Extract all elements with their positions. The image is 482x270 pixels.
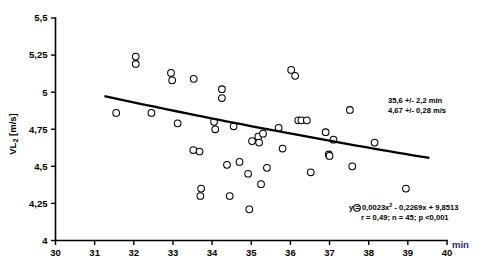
- data-point-circle: [258, 181, 265, 188]
- data-point-circle: [148, 110, 155, 117]
- data-point-circle: [219, 86, 226, 93]
- data-point-circle: [246, 206, 253, 213]
- x-axis-title: min: [452, 239, 469, 250]
- stats-annotation: 35,6 +/- 2,2 min 4,67 +/- 0,28 m/s: [388, 96, 446, 115]
- x-tick-label: 31: [89, 247, 100, 258]
- data-point-circle: [249, 138, 256, 145]
- data-point-circle: [307, 169, 314, 176]
- y-tick-label: 5: [42, 87, 48, 98]
- data-point: [132, 53, 139, 60]
- y-axis-tick-labels: 44,254,54,7555,255,5: [29, 12, 48, 246]
- data-point-circle: [322, 129, 329, 136]
- data-point-circle: [219, 95, 226, 102]
- stats-mean-time: 35,6 +/- 2,2 min: [388, 96, 443, 105]
- y-tick-label: 5,5: [34, 12, 48, 23]
- data-point: [264, 164, 271, 171]
- data-point: [219, 86, 226, 93]
- x-tick-label: 35: [246, 247, 257, 258]
- data-point-circle: [403, 185, 410, 192]
- x-tick-label: 38: [363, 247, 374, 258]
- x-tick-label: 40: [442, 247, 453, 258]
- scatter-plot-figure: 44,254,54,7555,255,5 3031323334353637383…: [0, 0, 482, 270]
- data-point-circle: [113, 110, 120, 117]
- data-point: [132, 61, 139, 68]
- data-point-circle: [279, 145, 286, 152]
- data-point: [219, 95, 226, 102]
- data-point-circle: [326, 153, 333, 160]
- y-axis-title: VL2 [m/s]: [7, 113, 20, 154]
- data-point: [174, 120, 181, 127]
- data-point-circle: [197, 193, 204, 200]
- y-tick-label: 5,25: [29, 49, 48, 60]
- x-axis: 3031323334353637383940: [50, 241, 452, 259]
- data-point: [322, 129, 329, 136]
- data-point-circle: [288, 67, 295, 74]
- data-point: [371, 139, 378, 146]
- data-point-circle: [245, 170, 252, 177]
- data-point-circle: [198, 185, 205, 192]
- data-point: [196, 148, 203, 155]
- data-point: [198, 185, 205, 192]
- x-tick-label: 37: [324, 247, 335, 258]
- data-point-circle: [256, 139, 263, 146]
- data-point: [212, 126, 219, 133]
- y-tick-label: 4: [42, 235, 48, 246]
- data-point-circle: [174, 120, 181, 127]
- data-point: [236, 159, 243, 166]
- y-tick-label: 4,25: [29, 198, 48, 209]
- data-point-circle: [169, 77, 176, 84]
- x-tick-label: 32: [129, 247, 140, 258]
- data-point: [148, 110, 155, 117]
- data-point-circle: [260, 130, 267, 137]
- data-point: [349, 163, 356, 170]
- data-points: [113, 53, 409, 212]
- x-axis-tick-labels: 3031323334353637383940: [50, 247, 452, 258]
- data-point: [307, 169, 314, 176]
- data-point: [224, 162, 231, 169]
- data-point: [246, 206, 253, 213]
- data-point: [292, 73, 299, 80]
- data-point: [245, 170, 252, 177]
- data-point-circle: [132, 61, 139, 68]
- regression-annotation: y = 0,0023x2 - 0,2269x + 9,8513 r = 0,49…: [349, 202, 458, 222]
- data-point-circle: [212, 126, 219, 133]
- data-point: [113, 110, 120, 117]
- data-point-circle: [349, 163, 356, 170]
- y-tick-label: 4,5: [34, 161, 48, 172]
- data-point: [190, 75, 197, 82]
- data-point: [256, 139, 263, 146]
- data-point-circle: [371, 139, 378, 146]
- data-point: [169, 77, 176, 84]
- data-point: [303, 117, 310, 124]
- data-point-circle: [292, 73, 299, 80]
- data-point-circle: [236, 159, 243, 166]
- y-tick-label: 4,75: [29, 124, 48, 135]
- regression-fit-stats: r = 0,49; n = 45; p <0,001: [361, 213, 449, 222]
- x-tick-label: 33: [168, 247, 179, 258]
- chart-canvas: 44,254,54,7555,255,5 3031323334353637383…: [0, 0, 482, 270]
- stats-mean-velocity: 4,67 +/- 0,28 m/s: [388, 106, 446, 115]
- data-point-circle: [196, 148, 203, 155]
- data-point: [168, 70, 175, 77]
- regression-equation: y = 0,0023x2 - 0,2269x + 9,8513: [349, 202, 458, 212]
- data-point-circle: [132, 53, 139, 60]
- data-point-circle: [347, 107, 354, 114]
- data-point-circle: [224, 162, 231, 169]
- trend-line: [104, 96, 429, 158]
- data-point-circle: [264, 164, 271, 171]
- x-tick-label: 39: [403, 247, 414, 258]
- data-point-circle: [190, 75, 197, 82]
- data-point-circle: [226, 193, 233, 200]
- data-point-circle: [190, 147, 197, 154]
- data-point: [403, 185, 410, 192]
- data-point: [326, 153, 333, 160]
- data-point-circle: [303, 117, 310, 124]
- data-point: [249, 138, 256, 145]
- data-point: [258, 181, 265, 188]
- data-point-circle: [168, 70, 175, 77]
- data-point: [347, 107, 354, 114]
- x-tick-label: 34: [207, 247, 218, 258]
- data-point: [190, 147, 197, 154]
- data-point: [226, 193, 233, 200]
- data-point: [197, 193, 204, 200]
